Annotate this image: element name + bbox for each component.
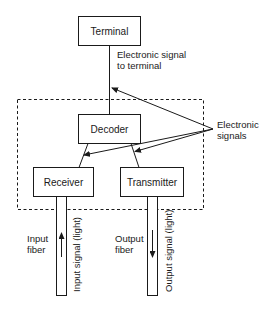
decoder-box: Decoder: [79, 115, 141, 144]
terminal-box: Terminal: [79, 17, 141, 46]
terminal-label: Terminal: [91, 26, 129, 37]
input-fiber-label-1: Input: [27, 233, 48, 244]
input-signal-label: Input signal (light): [71, 217, 82, 292]
electronic-signals-label-2: signals: [217, 130, 247, 141]
receiver-box: Receiver: [34, 168, 94, 197]
input-fiber: [57, 197, 67, 296]
input-fiber-label-2: fiber: [27, 244, 45, 255]
signal-to-terminal-label-2: to terminal: [117, 60, 161, 71]
signal-to-terminal-label-1: Electronic signal: [117, 49, 186, 60]
decoder-label: Decoder: [91, 124, 129, 135]
output-fiber-label-1: Output: [115, 233, 144, 244]
output-fiber-label-2: fiber: [115, 244, 133, 255]
transmitter-box: Transmitter: [121, 168, 184, 197]
decoder-transmitter-line: [131, 144, 139, 168]
receiver-label: Receiver: [44, 177, 84, 188]
transmitter-label: Transmitter: [127, 177, 178, 188]
electronic-signals-label-1: Electronic: [217, 119, 259, 130]
output-fiber: [148, 197, 158, 296]
fiber-optic-transceiver-diagram: Terminal Electronic signal to terminal D…: [0, 0, 269, 310]
decoder-receiver-line: [79, 144, 88, 168]
output-signal-label: Output signal (light): [163, 210, 174, 292]
